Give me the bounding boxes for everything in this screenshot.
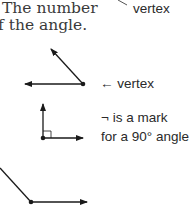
angle-diagrams [0,0,189,223]
top-ray-fragment [118,0,127,5]
vertex-point [29,200,34,205]
obtuse-angle-figure [25,49,85,86]
bottom-angle-figure [0,168,87,204]
right-angle-figure [41,104,83,140]
vertex-point [81,82,86,87]
vertex-point [41,136,46,141]
